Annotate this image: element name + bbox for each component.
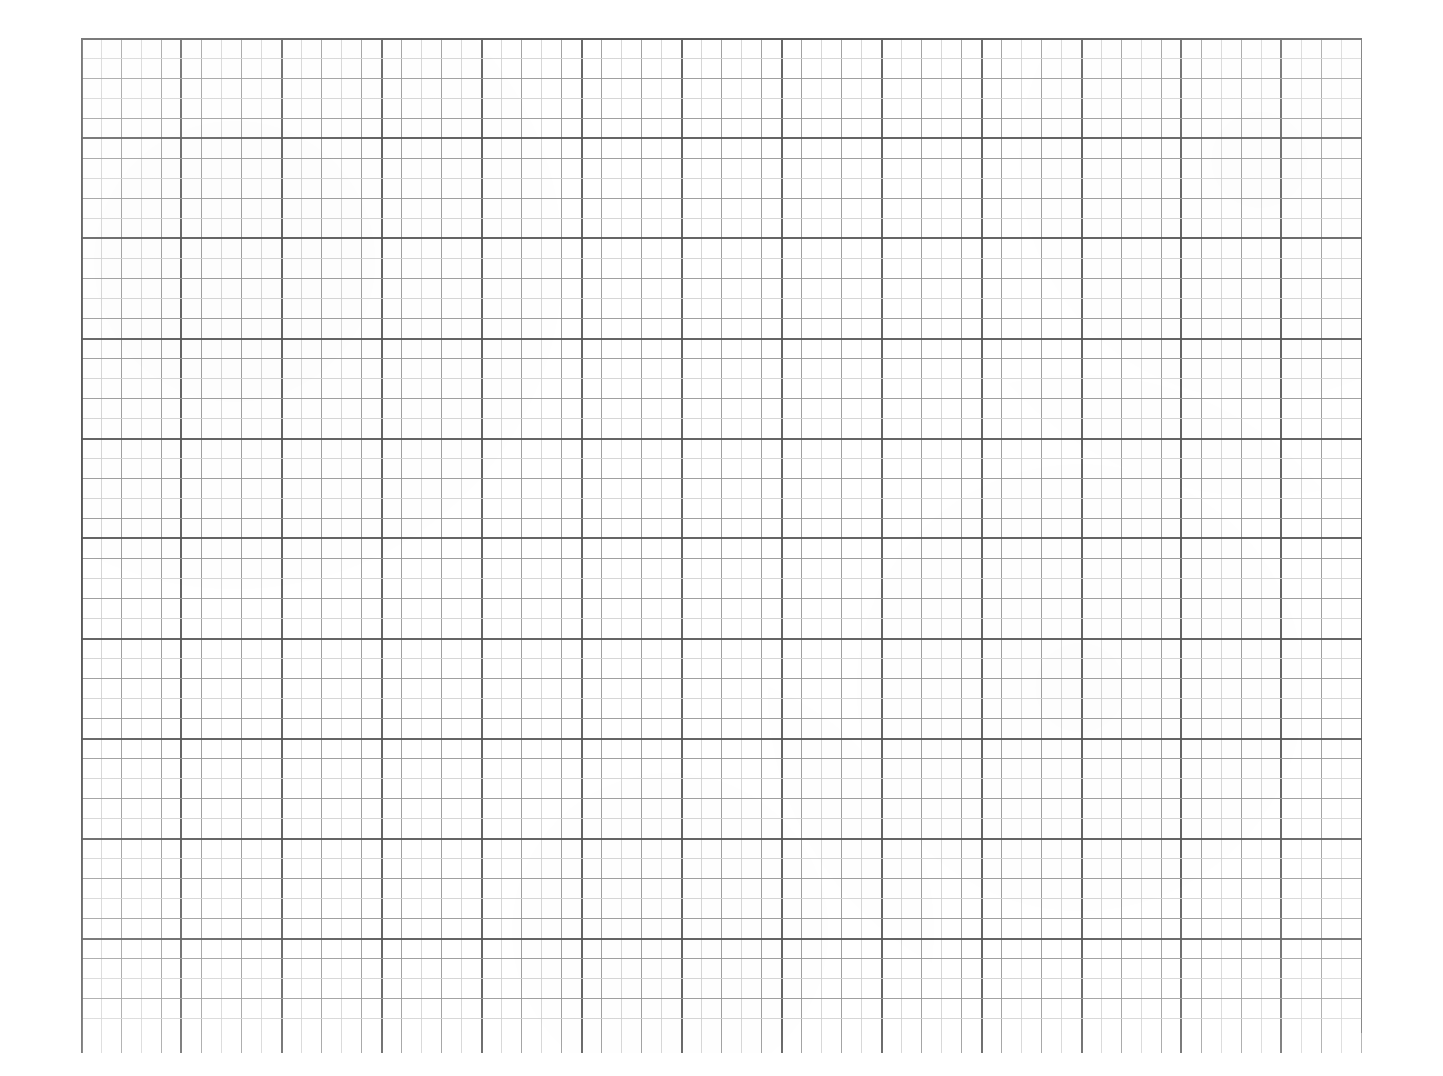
grid-lines-svg	[81, 38, 1362, 1053]
graph-paper-page	[0, 0, 1443, 1076]
grid-sheet	[81, 38, 1362, 1053]
